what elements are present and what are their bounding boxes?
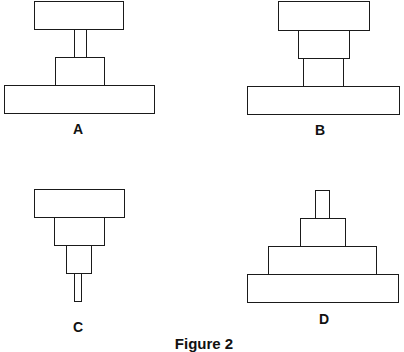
diagram-a-stem — [74, 29, 87, 58]
diagram-b-label: B — [310, 123, 330, 137]
diagram-c-label: C — [68, 320, 88, 334]
diagram-a-middle-block — [55, 57, 105, 86]
diagram-b-lower-middle-block — [303, 58, 344, 87]
diagram-a-label: A — [68, 122, 88, 136]
diagram-a-top-block — [34, 1, 124, 30]
diagram-c-middle-block — [54, 217, 105, 246]
diagram-b-base-block — [247, 86, 400, 115]
diagram-c-narrow-block — [66, 245, 92, 274]
diagram-d-stem — [315, 190, 330, 219]
figure-caption: Figure 2 — [164, 336, 244, 351]
diagram-c-top-block — [34, 189, 125, 218]
diagram-d-medium-block — [268, 246, 377, 275]
diagram-b-top-block — [278, 1, 370, 31]
diagram-c-stem — [74, 273, 82, 302]
diagram-d-small-block — [300, 218, 346, 247]
diagram-b-upper-middle-block — [298, 30, 350, 59]
diagram-d-label: D — [314, 312, 334, 326]
diagram-d-base-block — [247, 274, 399, 303]
diagram-a-base-block — [4, 85, 155, 114]
